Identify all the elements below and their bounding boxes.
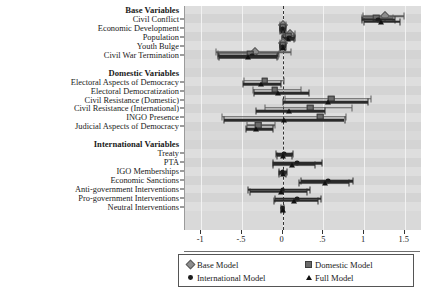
legend-circle-icon <box>185 275 196 280</box>
plot-row-band <box>185 41 421 50</box>
label-tick <box>180 108 184 109</box>
interval-cap <box>318 197 319 204</box>
point-estimate-marker <box>291 198 297 203</box>
axis-tick <box>404 230 405 234</box>
interval-cap <box>272 161 273 168</box>
interval-cap <box>315 161 316 168</box>
variable-label: Economic Sanctions <box>110 176 179 185</box>
point-estimate-marker <box>280 207 286 212</box>
point-estimate-marker <box>322 180 328 185</box>
axis-tick-label: -.5 <box>236 235 245 244</box>
plot-row-band <box>185 149 421 158</box>
variable-label: Economic Development <box>98 23 179 32</box>
group-header-label: Base Variables <box>125 6 179 15</box>
plot-row-band <box>185 122 421 131</box>
variable-label: Civil Resistance (International) <box>74 104 179 113</box>
interval-cap <box>321 160 322 167</box>
label-tick <box>180 45 184 46</box>
label-tick <box>180 189 184 190</box>
coefficient-plot-figure: Base VariablesCivil ConflictEconomic Dev… <box>0 0 422 293</box>
legend-row: Base ModelDomestic Model <box>185 258 407 271</box>
grid-line <box>405 6 406 230</box>
point-estimate-marker <box>280 46 286 51</box>
legend-label: Base Model <box>197 260 238 270</box>
point-estimate-marker <box>278 189 284 194</box>
legend-item[interactable]: Base Model <box>185 260 303 270</box>
legend-row: International ModelFull Model <box>185 271 407 284</box>
plot-panel <box>184 6 421 230</box>
point-estimate-marker <box>289 162 295 167</box>
point-estimate-marker <box>281 118 287 123</box>
variable-label: INGO Presence <box>126 113 179 122</box>
label-tick <box>180 180 184 181</box>
label-tick <box>180 27 184 28</box>
interval-cap <box>309 186 310 193</box>
interval-cap <box>283 99 284 106</box>
axis-tick-label: 1 <box>361 235 365 244</box>
variable-label: IGO Memberships <box>116 167 179 176</box>
variable-label: Population <box>143 32 179 41</box>
grid-line <box>364 6 365 230</box>
axis-tick <box>282 230 283 234</box>
interval-cap <box>272 125 273 132</box>
interval-cap <box>370 95 371 102</box>
variable-label-column: Base VariablesCivil ConflictEconomic Dev… <box>0 0 185 230</box>
plot-row-band <box>185 32 421 41</box>
interval-cap <box>276 152 277 159</box>
axis-tick-label: .5 <box>319 235 325 244</box>
legend-label: International Model <box>197 273 266 283</box>
variable-label: Judicial Aspects of Democracy <box>75 122 179 131</box>
plot-row-band <box>185 23 421 32</box>
interval-cap <box>349 179 350 186</box>
variable-label: Pro-government Interventions <box>78 193 179 202</box>
grid-line <box>201 6 202 230</box>
axis-tick-label: 1.5 <box>398 235 408 244</box>
legend-label: Full Model <box>315 273 353 283</box>
interval-cap <box>351 104 352 111</box>
interval-cap <box>352 177 353 184</box>
interval-cap <box>276 54 277 61</box>
point-estimate-marker <box>253 126 259 131</box>
point-estimate-marker <box>280 171 286 176</box>
variable-label: Youth Bulge <box>137 41 179 50</box>
interval-cap <box>255 108 256 115</box>
axis-tick <box>363 230 364 234</box>
legend-triangle-icon <box>303 275 314 280</box>
interval-cap <box>246 125 247 132</box>
confidence-interval-bar <box>246 128 273 131</box>
interval-cap <box>284 77 285 84</box>
interval-cap <box>399 18 400 25</box>
legend: Base ModelDomestic ModelInternational Mo… <box>178 254 414 287</box>
legend-item[interactable]: International Model <box>185 273 303 283</box>
variable-label: Electoral Democratization <box>91 86 179 95</box>
interval-cap <box>308 90 309 97</box>
interval-cap <box>274 122 275 129</box>
interval-cap <box>292 152 293 159</box>
point-estimate-marker <box>325 100 331 105</box>
label-tick <box>180 153 184 154</box>
axis-tick-label: 0 <box>280 235 284 244</box>
group-header-label: International Variables <box>94 140 179 149</box>
label-tick <box>180 54 184 55</box>
legend-item[interactable]: Domestic Model <box>303 260 373 270</box>
legend-item[interactable]: Full Model <box>303 273 353 283</box>
legend-diamond-icon <box>185 261 196 268</box>
legend-square-icon <box>303 261 314 268</box>
x-axis: -1-.50.511.5 <box>184 230 420 252</box>
point-estimate-marker <box>286 109 292 114</box>
point-estimate-marker <box>245 55 251 60</box>
interval-cap <box>320 195 321 202</box>
label-tick <box>180 81 184 82</box>
variable-label: Civil Conflict <box>133 14 179 23</box>
interval-cap <box>368 99 369 106</box>
axis-rule <box>184 251 420 252</box>
label-tick <box>180 90 184 91</box>
point-estimate-marker <box>378 19 384 24</box>
plot-row-band <box>185 77 421 86</box>
interval-cap <box>294 36 295 43</box>
variable-label: Anti-government Interventions <box>75 185 179 194</box>
label-tick <box>180 126 184 127</box>
label-tick <box>180 18 184 19</box>
axis-tick-label: -1 <box>197 235 204 244</box>
plot-row-band <box>185 68 421 77</box>
